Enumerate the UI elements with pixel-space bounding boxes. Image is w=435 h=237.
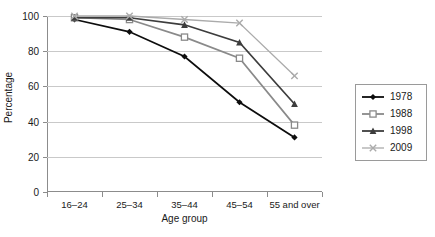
data-point-marker: [181, 34, 187, 40]
x-axis-tick-label: 16–24: [61, 199, 87, 210]
data-point-marker: [291, 122, 297, 128]
legend-label: 2009: [390, 142, 412, 153]
legend: 1978198819982009: [355, 84, 427, 161]
y-axis-tick-label: 20: [28, 151, 39, 162]
legend-item-1988[interactable]: 1988: [356, 105, 426, 122]
y-axis-tick-label: 0: [33, 187, 39, 198]
x-tick-mark: [157, 192, 158, 197]
x-tick-mark: [322, 192, 323, 197]
legend-key-2009-icon: [360, 141, 386, 155]
data-point-marker: [236, 55, 242, 61]
x-axis-tick-label: 55 and over: [269, 199, 319, 210]
y-axis-tick-label: 60: [28, 81, 39, 92]
x-axis-tick-label: 35–44: [171, 199, 197, 210]
x-tick-mark: [212, 192, 213, 197]
data-point-marker: [370, 110, 376, 116]
x-tick-mark: [102, 192, 103, 197]
data-point-marker: [126, 29, 132, 35]
y-axis-tick-label: 80: [28, 46, 39, 57]
legend-item-1998[interactable]: 1998: [356, 122, 426, 139]
series-1988: [71, 15, 297, 129]
legend-key-1998-icon: [360, 124, 386, 138]
legend-item-1978[interactable]: 1978: [356, 88, 426, 105]
series-1998: [71, 14, 298, 107]
plot-area: 020406080100 16–2425–3435–4445–5455 and …: [47, 16, 322, 192]
y-axis-title: Percentage: [3, 68, 14, 128]
legend-label: 1978: [390, 91, 412, 102]
series-layer: [47, 16, 322, 192]
legend-key-1988-icon: [360, 107, 386, 121]
data-point-marker: [370, 93, 376, 99]
data-point-marker: [291, 73, 297, 79]
chart-figure: Percentage 020406080100 16–2425–3435–444…: [0, 0, 435, 237]
legend-label: 1998: [390, 125, 412, 136]
x-tick-mark: [267, 192, 268, 197]
y-axis-tick-label: 40: [28, 116, 39, 127]
x-tick-mark: [47, 192, 48, 197]
x-axis-title: Age group: [47, 213, 322, 224]
legend-label: 1988: [390, 108, 412, 119]
legend-key-1978-icon: [360, 90, 386, 104]
y-axis-tick-label: 100: [22, 11, 39, 22]
legend-item-2009[interactable]: 2009: [356, 139, 426, 156]
x-axis-tick-label: 45–54: [226, 199, 252, 210]
series-line: [75, 18, 295, 104]
x-axis-tick-label: 25–34: [116, 199, 142, 210]
